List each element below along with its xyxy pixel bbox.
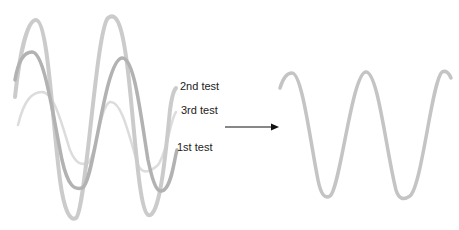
label-1st-test: 1st test [177, 141, 212, 153]
diagram-canvas [0, 0, 459, 230]
arrow-head-icon [271, 124, 279, 131]
waveform-aligned [280, 71, 451, 198]
waveform-alignment-diagram: 2nd test 3rd test 1st test [0, 0, 459, 230]
waveform-2nd-test [15, 16, 176, 218]
label-3rd-test: 3rd test [181, 104, 218, 116]
label-2nd-test: 2nd test [180, 80, 219, 92]
